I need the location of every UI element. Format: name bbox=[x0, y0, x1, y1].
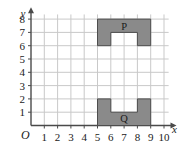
y-axis-tick-label: 2 bbox=[20, 93, 26, 105]
y-axis-tick-label: 6 bbox=[20, 40, 26, 52]
x-axis-tick-label: 10 bbox=[159, 131, 171, 143]
shape-label-q: Q bbox=[120, 113, 128, 124]
x-axis-tick-label: 6 bbox=[108, 131, 114, 143]
coordinate-grid-figure: 1234567891012345678 PQ O y x bbox=[0, 0, 183, 160]
x-axis-tick-label: 9 bbox=[148, 131, 154, 143]
shape-label-p: P bbox=[121, 21, 127, 32]
x-axis-tick-label: 3 bbox=[68, 131, 74, 143]
y-axis-label: y bbox=[20, 7, 26, 19]
x-axis-tick-label: 1 bbox=[42, 131, 48, 143]
y-axis-tick-label: 1 bbox=[20, 106, 26, 118]
y-axis-tick-label: 4 bbox=[20, 66, 26, 78]
x-axis-label: x bbox=[171, 123, 177, 135]
y-axis-tick-label: 5 bbox=[20, 53, 26, 65]
y-axis-tick-label: 7 bbox=[20, 26, 26, 38]
origin-label: O bbox=[21, 128, 30, 142]
plot-area: 1234567891012345678 PQ O y x bbox=[0, 0, 183, 160]
x-axis-tick-label: 2 bbox=[55, 131, 61, 143]
x-axis-tick-label: 7 bbox=[121, 131, 127, 143]
x-axis-tick-label: 8 bbox=[135, 131, 141, 143]
x-axis-tick-label: 5 bbox=[95, 131, 101, 143]
y-axis-tick-label: 3 bbox=[20, 80, 26, 92]
x-axis-tick-label: 4 bbox=[81, 131, 87, 143]
